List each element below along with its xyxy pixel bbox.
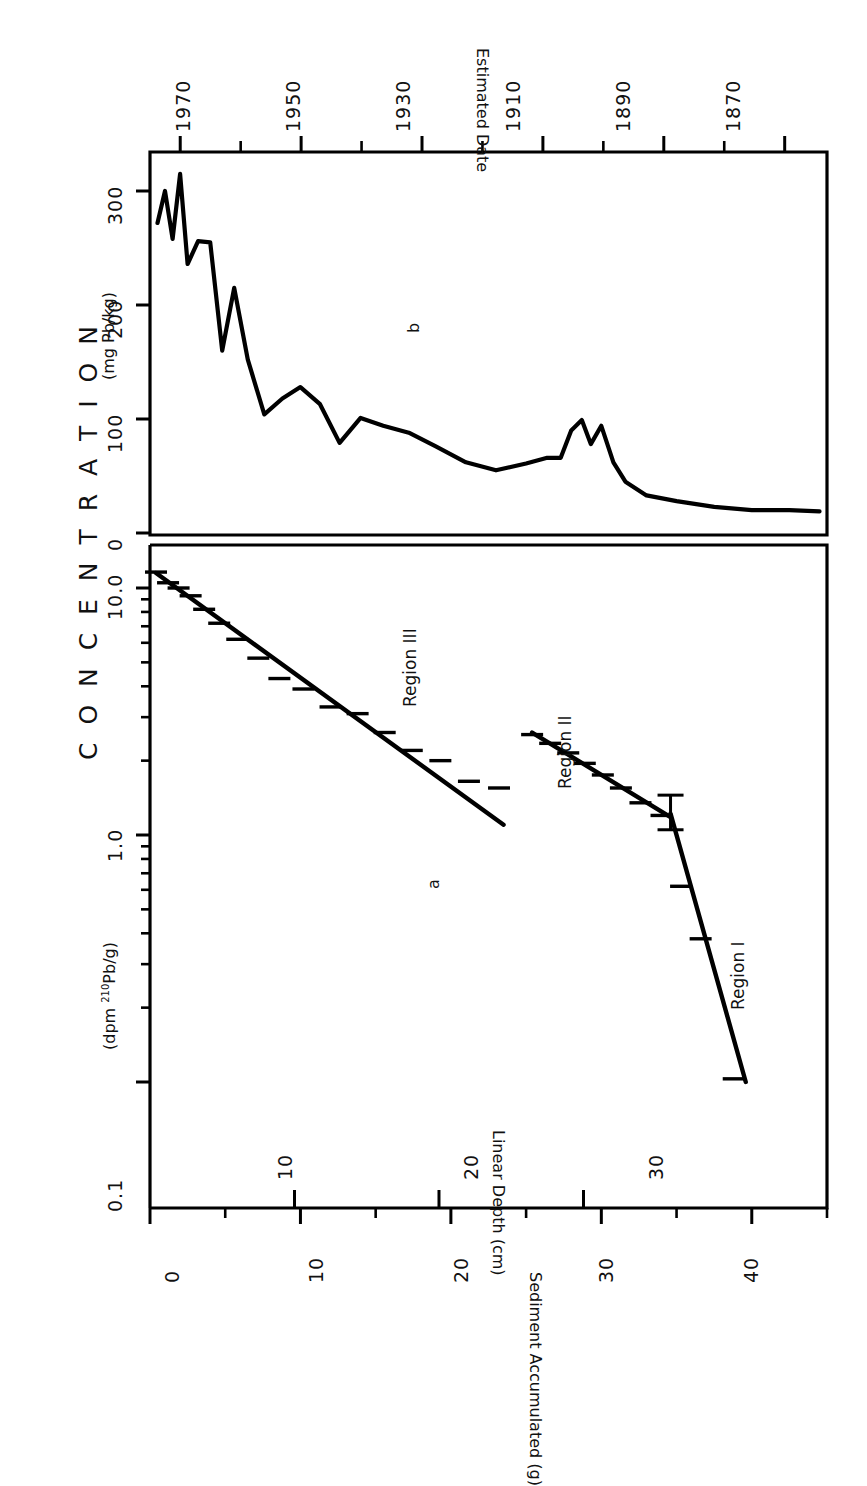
depth-tick-30: 30 — [645, 1154, 667, 1180]
region-i-label: Region I — [728, 941, 748, 1010]
date-tick-1870: 1870 — [722, 80, 744, 132]
pb-tick-300: 300 — [104, 186, 126, 225]
depth-tick-20: 20 — [460, 1154, 482, 1180]
concentration-axis-label-suffix: Pb/g) — [100, 942, 119, 984]
region-ii-label: Region II — [555, 715, 575, 789]
conc-tick-0-1: 0.1 — [104, 1179, 126, 1212]
sediment-axis-label: Sediment Accumulated (g) — [526, 1272, 545, 1486]
region-iii-label: Region III — [400, 628, 420, 707]
pb-tick-100: 100 — [104, 414, 126, 453]
date-tick-1910: 1910 — [502, 80, 524, 132]
concentration-axis-label-sup: 210 — [100, 984, 111, 1003]
depth-tick-10: 10 — [274, 1154, 296, 1180]
sediment-tick-30: 30 — [595, 1257, 617, 1283]
date-axis-label: Estimated Date — [473, 48, 492, 172]
concentration-axis-label-prefix: (dpm — [100, 1003, 119, 1050]
depth-axis-label: Linear Depth (cm) — [489, 1130, 508, 1276]
conc-tick-10: 10.0 — [104, 574, 126, 620]
date-tick-1890: 1890 — [612, 80, 634, 132]
pb-tick-200: 200 — [104, 300, 126, 339]
date-tick-1930: 1930 — [392, 80, 414, 132]
conc-tick-1: 1.0 — [104, 829, 126, 862]
panel-a-label: a — [424, 879, 443, 889]
sediment-tick-20: 20 — [450, 1257, 472, 1283]
sediment-tick-0: 0 — [161, 1270, 183, 1283]
concentration-axis-label: (dpm 210Pb/g) — [100, 942, 119, 1050]
sediment-tick-40: 40 — [740, 1257, 762, 1283]
pb-tick-0: 0 — [104, 538, 126, 551]
page-title: C O N C E N T R A T I O N — [74, 321, 103, 760]
date-tick-1970: 1970 — [172, 80, 194, 132]
sediment-tick-10: 10 — [305, 1257, 327, 1283]
panel-b-label: b — [404, 323, 423, 333]
date-tick-1950: 1950 — [282, 80, 304, 132]
